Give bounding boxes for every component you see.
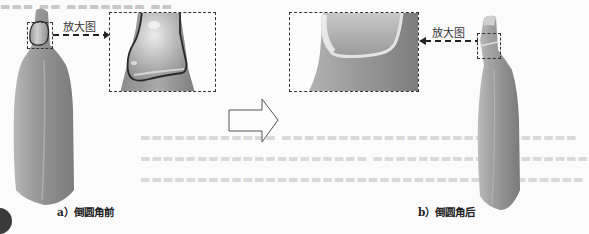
caption-after: b）倒圆角后	[418, 204, 475, 219]
zoomed-view-after	[289, 12, 419, 92]
zoom-region-marker	[477, 33, 501, 59]
zoom-region-marker	[27, 22, 53, 49]
neck-closeup-before	[110, 13, 216, 92]
caption-before: a）倒圆角前	[57, 204, 114, 219]
hollow-right-arrow-icon	[228, 98, 288, 148]
neck-closeup-after	[290, 13, 419, 92]
zoom-label: 放大图	[432, 24, 465, 40]
zoomed-view-before	[109, 12, 216, 92]
